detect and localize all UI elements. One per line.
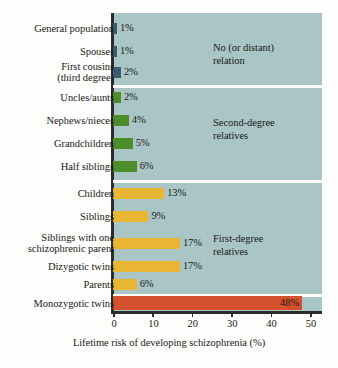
x-tick-label: 40 — [266, 318, 277, 330]
bar-value-label: 13% — [167, 187, 186, 198]
bar-value-label: 6% — [140, 160, 154, 171]
bar-value-label: 4% — [132, 114, 146, 125]
schizophrenia-risk-chart: 1%1%2%2%4%5%6%13%9%17%17%6%48% General p… — [0, 0, 338, 368]
x-tick-label: 20 — [188, 318, 199, 330]
bar — [113, 67, 121, 78]
category-label: Siblings — [80, 211, 114, 223]
bar — [113, 161, 137, 172]
group-separator-2 — [113, 180, 322, 183]
bar-value-label: 48% — [280, 297, 299, 308]
bar-value-label: 1% — [120, 22, 134, 33]
category-label: Dizygotic twins — [48, 261, 114, 273]
group-separator-1 — [113, 85, 322, 88]
bar-value-label: 6% — [140, 278, 154, 289]
bar-value-label: 2% — [124, 91, 138, 102]
category-label: Half siblings — [61, 161, 114, 173]
x-axis-line — [111, 311, 322, 314]
group-annotation: First-degree relatives — [213, 233, 263, 258]
bar — [113, 279, 137, 290]
bar — [113, 92, 121, 103]
category-label: Parents — [83, 279, 114, 291]
category-label: Nephews/nieces — [46, 115, 114, 127]
x-tick-label: 10 — [148, 318, 159, 330]
bar — [113, 115, 129, 126]
x-tick-label: 50 — [306, 318, 317, 330]
bar — [113, 138, 133, 149]
x-tick-label: 0 — [111, 318, 116, 330]
x-axis-title: Lifetime risk of developing schizophreni… — [0, 337, 338, 348]
category-label: First cousins (third degree) — [57, 61, 114, 84]
x-tick-mark — [152, 313, 154, 317]
group-annotation: No (or distant) relation — [213, 42, 274, 67]
x-tick-mark — [113, 313, 115, 317]
category-label: General population — [34, 23, 114, 35]
x-tick-mark — [231, 313, 233, 317]
bar — [113, 211, 148, 222]
x-tick-mark — [310, 313, 312, 317]
category-label: Monozygotic twins — [33, 298, 114, 310]
bar — [113, 261, 180, 272]
bar-value-label: 17% — [183, 237, 202, 248]
bar — [113, 238, 180, 249]
category-label: Siblings with one schizophrenic parent — [28, 232, 114, 255]
x-tick-mark — [271, 313, 273, 317]
x-tick-mark — [192, 313, 194, 317]
bar-value-label: 2% — [124, 66, 138, 77]
bar — [113, 188, 164, 199]
bar — [113, 296, 302, 310]
bar-value-label: 5% — [136, 137, 150, 148]
bar-value-label: 1% — [120, 45, 134, 56]
category-label: Children — [78, 188, 114, 200]
category-label: Grandchildren — [54, 138, 114, 150]
x-tick-label: 30 — [227, 318, 238, 330]
category-label: Spouses — [80, 46, 114, 58]
category-label: Uncles/aunts — [60, 92, 114, 104]
bar-value-label: 17% — [183, 260, 202, 271]
group-annotation: Second-degree relatives — [213, 117, 275, 142]
bar-value-label: 9% — [151, 210, 165, 221]
